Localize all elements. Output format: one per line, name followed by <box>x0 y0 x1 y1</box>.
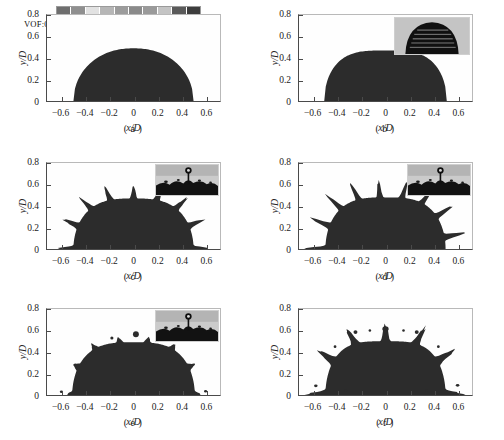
panel-caption-a: ( a ) <box>124 123 143 134</box>
panel-caption-f: ( f ) <box>376 417 394 428</box>
y-tick-label: 0.2 <box>279 223 291 233</box>
panel-caption-c: ( c ) <box>124 271 143 282</box>
plot-area-b: x/D y/D −0.6−0.4−0.200.20.40.600.20.40.6… <box>298 14 473 102</box>
x-tick <box>207 391 208 395</box>
x-tick <box>314 245 315 249</box>
y-tick <box>47 185 51 186</box>
secondary-droplet <box>402 329 405 332</box>
x-tick <box>387 245 388 249</box>
x-tick <box>207 245 208 249</box>
x-tick <box>86 391 87 395</box>
x-tick <box>159 97 160 101</box>
y-tick-label: 0.6 <box>27 325 39 335</box>
y-tick <box>47 229 51 230</box>
y-tick <box>299 37 303 38</box>
y-tick-label: 0.8 <box>279 303 291 313</box>
x-tick-label: −0.2 <box>101 108 118 118</box>
x-tick <box>135 245 136 249</box>
secondary-droplet <box>437 345 440 348</box>
x-tick-label: 0.6 <box>200 402 212 412</box>
x-tick-label: 0.2 <box>152 256 164 266</box>
x-tick-label: 0.6 <box>452 256 464 266</box>
x-tick-label: 0.2 <box>404 402 416 412</box>
y-tick <box>299 59 303 60</box>
x-tick-label: 0.6 <box>200 256 212 266</box>
x-tick-label: 0.4 <box>428 402 440 412</box>
secondary-droplet <box>456 384 460 387</box>
experiment-inset-d <box>407 164 471 196</box>
y-tick-label: 0.8 <box>279 157 291 167</box>
panel-caption-b: ( b ) <box>375 123 394 134</box>
y-tick-label: 0 <box>34 245 39 255</box>
x-tick-label: −0.2 <box>353 402 370 412</box>
x-tick <box>387 97 388 101</box>
plot-area-e: x/D y/D −0.6−0.4−0.200.20.40.600.20.40.6… <box>46 308 221 396</box>
x-tick <box>338 391 339 395</box>
x-tick-label: 0 <box>131 402 136 412</box>
x-tick <box>411 97 412 101</box>
experiment-inset-b <box>394 17 470 55</box>
x-tick-label: 0.2 <box>404 108 416 118</box>
x-tick <box>411 245 412 249</box>
secondary-droplet <box>353 330 357 334</box>
x-tick-label: 0.4 <box>176 108 188 118</box>
y-axis-title-f: y/D <box>269 345 280 359</box>
x-tick <box>459 245 460 249</box>
secondary-droplet <box>344 389 347 391</box>
y-tick-label: 0.8 <box>27 157 39 167</box>
x-tick <box>362 245 363 249</box>
x-tick <box>183 245 184 249</box>
y-tick <box>299 15 303 16</box>
y-tick-label: 0.4 <box>279 201 291 211</box>
secondary-droplet <box>133 331 139 337</box>
y-tick-label: 0.2 <box>279 369 291 379</box>
y-tick-label: 0.4 <box>279 347 291 357</box>
y-tick-label: 0.8 <box>27 303 39 313</box>
liquid-region <box>305 323 466 395</box>
x-tick <box>459 97 460 101</box>
x-tick-label: −0.4 <box>328 108 345 118</box>
liquid-region <box>67 337 201 395</box>
x-tick-label: −0.6 <box>304 256 321 266</box>
inset-stalk <box>440 172 442 184</box>
panel-a: VOF:0.1 0.2 0.3 0.4 0.5 0.6 0.7 0.8 0.9 … <box>0 0 252 148</box>
inset-stalk <box>188 318 190 330</box>
y-tick <box>299 353 303 354</box>
x-tick-label: 0.2 <box>152 402 164 412</box>
panel-f: x/D y/D −0.6−0.4−0.200.20.40.600.20.40.6… <box>252 294 504 440</box>
panel-c: x/D y/D −0.6−0.4−0.200.20.40.600.20.40.6… <box>0 148 252 294</box>
x-tick <box>110 391 111 395</box>
y-tick <box>299 331 303 332</box>
x-tick-label: −0.4 <box>328 402 345 412</box>
liquid-region <box>73 48 193 101</box>
x-tick <box>183 391 184 395</box>
figure-panel-grid: VOF:0.1 0.2 0.3 0.4 0.5 0.6 0.7 0.8 0.9 … <box>0 0 504 440</box>
x-tick <box>62 391 63 395</box>
y-axis-title-a: y/D <box>17 51 28 65</box>
y-tick-label: 0.4 <box>27 201 39 211</box>
y-axis-title-b: y/D <box>269 51 280 65</box>
y-tick-label: 0.4 <box>27 347 39 357</box>
x-tick <box>338 97 339 101</box>
x-tick-label: −0.6 <box>52 256 69 266</box>
axes-frame-c <box>46 162 221 250</box>
y-tick-label: 0 <box>34 391 39 401</box>
x-tick <box>62 245 63 249</box>
x-tick-label: 0 <box>131 256 136 266</box>
panel-d: x/D y/D −0.6−0.4−0.200.20.40.600.20.40.6… <box>252 148 504 294</box>
y-tick-label: 0 <box>286 245 291 255</box>
x-tick <box>435 391 436 395</box>
x-tick-label: −0.2 <box>101 256 118 266</box>
x-tick <box>159 245 160 249</box>
inset-stalk <box>188 172 190 184</box>
y-tick-label: 0.4 <box>27 53 39 63</box>
secondary-droplet <box>382 326 388 331</box>
y-tick <box>47 207 51 208</box>
panel-caption-e: ( e ) <box>124 417 143 428</box>
x-tick <box>362 97 363 101</box>
droplet-shape-a <box>47 15 220 101</box>
panel-e: x/D y/D −0.6−0.4−0.200.20.40.600.20.40.6… <box>0 294 252 440</box>
y-tick-label: 0.2 <box>27 223 39 233</box>
experiment-inset-c <box>155 164 219 196</box>
x-tick-label: −0.4 <box>76 402 93 412</box>
